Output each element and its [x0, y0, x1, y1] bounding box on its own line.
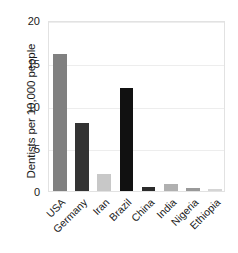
bar	[142, 187, 156, 191]
bar	[120, 88, 134, 191]
bar-chart: Dentists per 10,000 people 05101520 USAG…	[0, 0, 238, 253]
bar-series	[49, 22, 224, 191]
y-axis-tick-label: 5	[34, 143, 40, 155]
x-axis-tick-labels: USAGermanyIranBrazilChinaIndiaNigeriaEth…	[48, 192, 225, 253]
plot-area	[48, 21, 225, 192]
y-axis-tick-label: 10	[28, 101, 40, 113]
bar	[186, 188, 200, 191]
bar	[53, 54, 67, 191]
y-axis-tick-label: 0	[34, 186, 40, 198]
bar	[75, 123, 89, 191]
bar	[164, 184, 178, 191]
bar	[97, 174, 111, 191]
y-axis-tick-label: 15	[28, 58, 40, 70]
bar	[208, 189, 222, 191]
y-axis-tick-label: 20	[28, 15, 40, 27]
